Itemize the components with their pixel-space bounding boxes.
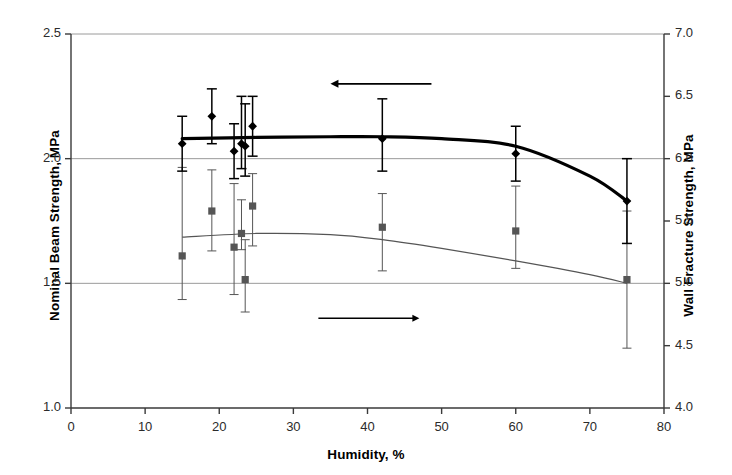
datapoint-wall-fracture <box>623 276 630 283</box>
datapoint-wall-fracture <box>379 224 386 231</box>
annotation-arrow-right-head <box>412 315 419 322</box>
x-axis-tick-label: 20 <box>199 419 239 434</box>
datapoint-beam-strength <box>207 112 216 121</box>
datapoint-wall-fracture <box>242 276 249 283</box>
datapoint-beam-strength <box>230 147 239 156</box>
datapoint-wall-fracture <box>238 230 245 237</box>
y-axis-left-tick-label: 1.5 <box>21 274 61 289</box>
y-axis-right-tick-label: 4.5 <box>675 337 715 352</box>
datapoint-beam-strength <box>178 139 187 148</box>
datapoint-wall-fracture <box>208 207 215 214</box>
y-axis-right-tick-label: 4.0 <box>675 399 715 414</box>
trendline-wall-fracture <box>182 233 627 283</box>
y-axis-right-tick-label: 7.0 <box>675 25 715 40</box>
x-axis-tick-label: 30 <box>273 419 313 434</box>
y-axis-right-tick-label: 6.5 <box>675 87 715 102</box>
datapoint-wall-fracture <box>249 202 256 209</box>
y-axis-left-tick-label: 2.5 <box>21 25 61 40</box>
x-axis-tick-label: 10 <box>125 419 165 434</box>
plot-area <box>0 0 732 475</box>
y-axis-right-tick-label: 5.0 <box>675 274 715 289</box>
datapoint-wall-fracture <box>230 244 237 251</box>
y-axis-left-title: Nominal Beam Strength, MPa <box>47 76 62 376</box>
y-axis-left-tick-label: 2.0 <box>21 150 61 165</box>
datapoint-wall-fracture <box>179 252 186 259</box>
x-axis-tick-label: 40 <box>348 419 388 434</box>
x-axis-title: Humidity, % <box>0 447 732 462</box>
x-axis-tick-label: 0 <box>51 419 91 434</box>
x-axis-tick-label: 80 <box>644 419 684 434</box>
annotation-arrow-left-head <box>330 80 338 88</box>
y-axis-right-tick-label: 5.5 <box>675 212 715 227</box>
x-axis-tick-label: 50 <box>422 419 462 434</box>
x-axis-tick-label: 60 <box>496 419 536 434</box>
datapoint-beam-strength <box>248 122 257 131</box>
chart-container: Nominal Beam Strength, MPa Wall Fracture… <box>0 0 732 475</box>
y-axis-left-tick-label: 1.0 <box>21 399 61 414</box>
x-axis-tick-label: 70 <box>570 419 610 434</box>
y-axis-right-tick-label: 6.0 <box>675 150 715 165</box>
datapoint-wall-fracture <box>512 227 519 234</box>
datapoint-beam-strength <box>511 149 520 158</box>
